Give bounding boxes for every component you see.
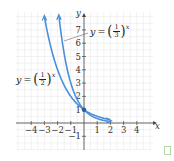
x-tick-label: 1 xyxy=(94,125,99,135)
y-tick-label: 3 xyxy=(76,78,81,88)
equation-half-label: y = ( 12 ) x xyxy=(16,72,55,87)
y-tick-label: 4 xyxy=(76,65,81,75)
y-tick-label: 7 xyxy=(76,25,81,35)
y-tick-label: −1 xyxy=(68,131,81,141)
x-tick-label: 2 xyxy=(108,125,113,135)
x-tick-label: −4 xyxy=(25,125,38,135)
y-axis-label: y xyxy=(75,8,81,18)
y-tick-label: 6 xyxy=(76,38,81,48)
x-tick-label: −2 xyxy=(51,125,64,135)
x-tick-label: 4 xyxy=(134,125,139,135)
x-tick-label: −3 xyxy=(38,125,51,135)
equation-third-label: y = ( 13 ) x xyxy=(90,24,129,39)
x-axis-label: x xyxy=(155,121,160,131)
intercept-point xyxy=(82,108,86,112)
x-tick-label: 3 xyxy=(121,125,126,135)
y-axis-arrow-icon xyxy=(82,13,86,17)
corner-marker xyxy=(164,146,171,155)
y-tick-label: 5 xyxy=(76,52,81,62)
